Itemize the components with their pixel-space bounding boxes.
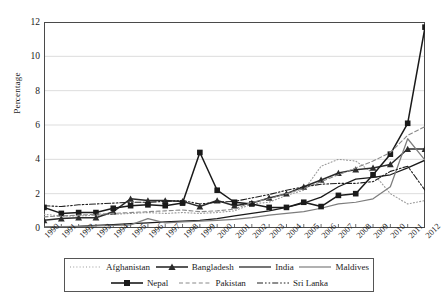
legend-item-maldives[interactable]: Maldives	[298, 262, 369, 272]
data-point	[353, 191, 359, 197]
data-point	[232, 199, 238, 205]
series-line	[44, 27, 425, 213]
data-point	[162, 203, 168, 209]
legend-item-india[interactable]: India	[238, 262, 294, 272]
data-point	[59, 211, 65, 217]
legend-item-sri-lanka[interactable]: Sri Lanka	[256, 278, 328, 288]
legend-swatch	[238, 262, 272, 272]
y-tick-label: 10	[18, 51, 40, 61]
legend-item-afghanistan[interactable]: Afghanistan	[69, 262, 150, 272]
y-tick-label: 8	[18, 86, 40, 96]
legend-swatch	[69, 262, 103, 272]
legend-label: Afghanistan	[106, 262, 150, 272]
y-tick-label: 4	[18, 154, 40, 164]
legend-row-1: AfghanistanBangladeshIndiaMaldives	[65, 259, 373, 275]
legend-item-bangladesh[interactable]: Bangladesh	[155, 262, 234, 272]
legend-swatch	[256, 278, 290, 288]
legend-label: Maldives	[335, 262, 369, 272]
data-point	[145, 202, 151, 208]
x-tick-label: 2012	[423, 221, 442, 240]
chart-legend: AfghanistanBangladeshIndiaMaldives Nepal…	[64, 258, 374, 292]
y-tick-label: 0	[18, 223, 40, 233]
data-point	[110, 205, 116, 211]
legend-label: Pakistan	[215, 278, 246, 288]
y-tick-label: 12	[18, 17, 40, 27]
data-point	[214, 187, 220, 193]
legend-item-pakistan[interactable]: Pakistan	[178, 278, 246, 288]
legend-swatch	[110, 278, 144, 288]
legend-label: Nepal	[147, 278, 169, 288]
legend-swatch	[178, 278, 212, 288]
data-point	[370, 172, 376, 178]
data-point	[197, 150, 203, 156]
plot-area	[44, 22, 425, 228]
series-line	[44, 149, 425, 220]
data-point	[128, 203, 134, 209]
y-axis-ticks: 024681012	[18, 22, 40, 228]
series-nepal	[44, 24, 425, 216]
chart-svg	[44, 22, 425, 228]
legend-item-nepal[interactable]: Nepal	[110, 278, 169, 288]
data-point	[405, 120, 411, 126]
legend-swatch	[298, 262, 332, 272]
data-point	[318, 204, 324, 210]
data-point	[336, 193, 342, 199]
legend-label: India	[275, 262, 294, 272]
y-tick-label: 2	[18, 189, 40, 199]
legend-label: Bangladesh	[192, 262, 234, 272]
legend-label: Sri Lanka	[293, 278, 328, 288]
data-point	[422, 24, 425, 30]
data-point	[266, 205, 272, 211]
legend-swatch	[155, 262, 189, 272]
legend-row-2: NepalPakistanSri Lanka	[65, 275, 373, 291]
data-point	[301, 199, 307, 205]
data-point	[284, 205, 290, 211]
y-tick-label: 6	[18, 120, 40, 130]
